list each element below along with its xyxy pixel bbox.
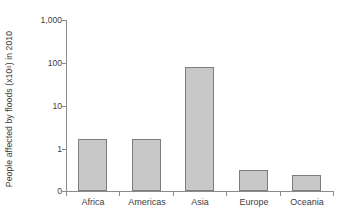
- y-tick-mark-100: [62, 63, 66, 64]
- bar-asia: [185, 67, 214, 191]
- y-axis-title-text-before: People affected by floods (x10: [4, 69, 14, 187]
- x-category-label-oceania: Oceania: [290, 197, 324, 207]
- bar-oceania: [292, 175, 321, 191]
- y-tick-mark-1000: [62, 20, 66, 21]
- plot-area: 1,000 100 10 1 0: [66, 20, 334, 192]
- x-axis-line: [66, 191, 334, 192]
- x-tick-mark-0: [66, 192, 67, 196]
- y-tick-mark-1: [62, 149, 66, 150]
- x-category-label-africa: Africa: [81, 197, 104, 207]
- bar-africa: [78, 139, 107, 191]
- y-tick-label-100: 100: [2, 58, 62, 68]
- x-category-label-asia: Asia: [191, 197, 209, 207]
- y-tick-label-10: 10: [2, 101, 62, 111]
- x-tick-mark-3: [226, 192, 227, 196]
- y-tick-mark-10: [62, 106, 66, 107]
- bar-europe: [239, 170, 268, 191]
- y-axis-line: [66, 20, 67, 192]
- x-category-label-europe: Europe: [239, 197, 268, 207]
- x-tick-mark-1: [119, 192, 120, 196]
- y-tick-label-0: 0: [2, 186, 62, 196]
- flood-impact-bar-chart: People affected by floods (x106) in 2010…: [0, 0, 344, 218]
- x-tick-mark-5: [333, 192, 334, 196]
- x-category-label-americas: Americas: [128, 197, 166, 207]
- y-tick-label-1000: 1,000: [2, 15, 62, 25]
- y-tick-label-1: 1: [2, 144, 62, 154]
- x-tick-mark-4: [280, 192, 281, 196]
- x-tick-mark-2: [173, 192, 174, 196]
- bar-americas: [132, 139, 161, 191]
